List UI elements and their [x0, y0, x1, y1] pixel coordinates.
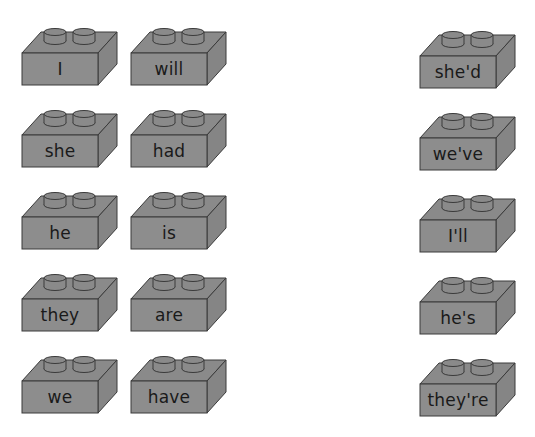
stud-right: [73, 275, 95, 291]
stud-right: [73, 193, 95, 209]
brick-word: he: [22, 217, 98, 249]
brick-word: had: [131, 135, 207, 167]
stud-right: [471, 196, 493, 212]
stud-left: [153, 193, 175, 209]
brick-word: she: [22, 135, 98, 167]
stud-right: [471, 32, 493, 48]
brick-word: I: [22, 53, 98, 85]
stud-left: [153, 29, 175, 45]
contraction-brick: she'd: [420, 31, 520, 91]
stud-right: [182, 111, 204, 127]
word-brick: we: [22, 356, 122, 416]
word-brick: he: [22, 192, 122, 252]
contraction-brick: we've: [420, 113, 520, 173]
brick-word: have: [131, 381, 207, 413]
stud-left: [442, 32, 464, 48]
word-brick: had: [131, 110, 231, 170]
brick-word: we've: [420, 138, 496, 170]
word-brick: are: [131, 274, 231, 334]
stud-left: [153, 275, 175, 291]
stud-left: [44, 275, 66, 291]
brick-word: he's: [420, 302, 496, 334]
stud-left: [442, 196, 464, 212]
word-brick: they: [22, 274, 122, 334]
stud-left: [153, 357, 175, 373]
brick-word: they're: [420, 384, 496, 416]
contraction-brick: I'll: [420, 195, 520, 255]
stud-left: [44, 193, 66, 209]
brick-word: are: [131, 299, 207, 331]
stud-left: [442, 278, 464, 294]
stud-right: [73, 29, 95, 45]
word-brick: I: [22, 28, 122, 88]
stud-right: [182, 357, 204, 373]
stud-left: [442, 114, 464, 130]
stud-right: [471, 278, 493, 294]
stud-right: [182, 29, 204, 45]
stud-right: [73, 111, 95, 127]
stud-right: [471, 114, 493, 130]
stud-left: [44, 111, 66, 127]
word-brick: is: [131, 192, 231, 252]
brick-word: I'll: [420, 220, 496, 252]
brick-word: is: [131, 217, 207, 249]
brick-word: we: [22, 381, 98, 413]
brick-word: she'd: [420, 56, 496, 88]
contraction-brick: he's: [420, 277, 520, 337]
contraction-brick: they're: [420, 359, 520, 419]
stud-right: [182, 275, 204, 291]
stud-left: [442, 360, 464, 376]
stud-left: [153, 111, 175, 127]
stud-left: [44, 29, 66, 45]
word-brick: have: [131, 356, 231, 416]
brick-word: they: [22, 299, 98, 331]
stud-right: [471, 360, 493, 376]
stud-right: [182, 193, 204, 209]
stud-right: [73, 357, 95, 373]
word-brick: will: [131, 28, 231, 88]
stud-left: [44, 357, 66, 373]
brick-word: will: [131, 53, 207, 85]
word-brick: she: [22, 110, 122, 170]
